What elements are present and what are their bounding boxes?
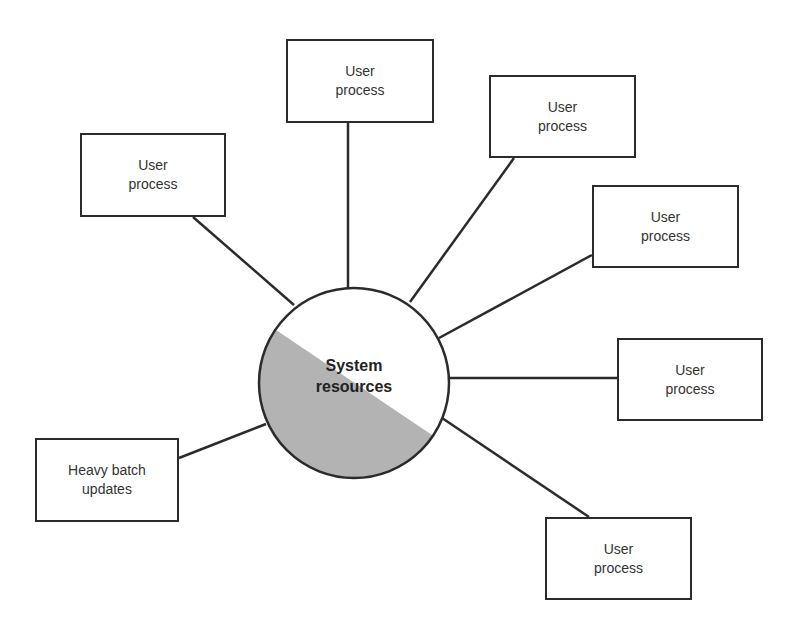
box-label-line1: User <box>675 361 705 380</box>
user-process-box-3: User process <box>489 75 636 158</box>
box-label-line1: User <box>138 156 168 175</box>
connector-user-process-4 <box>439 255 592 338</box>
box-label-line2: updates <box>82 480 132 499</box>
box-label-line2: process <box>538 117 587 136</box>
box-label-line2: process <box>128 175 177 194</box>
box-label-line2: process <box>594 559 643 578</box>
center-label-line1: System <box>254 355 454 376</box>
box-label-line2: process <box>665 380 714 399</box>
user-process-box-2: User process <box>286 39 434 123</box>
box-label-line2: process <box>641 227 690 246</box>
box-label-line1: User <box>345 62 375 81</box>
box-label-line1: User <box>548 98 578 117</box>
box-label-line1: User <box>651 208 681 227</box>
box-label-line2: process <box>335 81 384 100</box>
box-label-line1: Heavy batch <box>68 461 146 480</box>
center-label-line2: resources <box>254 376 454 397</box>
user-process-box-4: User process <box>592 185 739 268</box>
heavy-batch-updates-box: Heavy batch updates <box>35 438 179 522</box>
connector-user-process-3 <box>410 158 514 302</box>
connector-user-process-6 <box>442 418 589 517</box>
system-resources-label: System resources <box>254 355 454 397</box>
user-process-box-6: User process <box>545 517 692 600</box>
user-process-box-5: User process <box>617 338 763 421</box>
connector-user-process-1 <box>193 217 294 305</box>
user-process-box-1: User process <box>80 133 226 217</box>
connector-heavy-batch <box>179 424 266 458</box>
box-label-line1: User <box>604 540 634 559</box>
